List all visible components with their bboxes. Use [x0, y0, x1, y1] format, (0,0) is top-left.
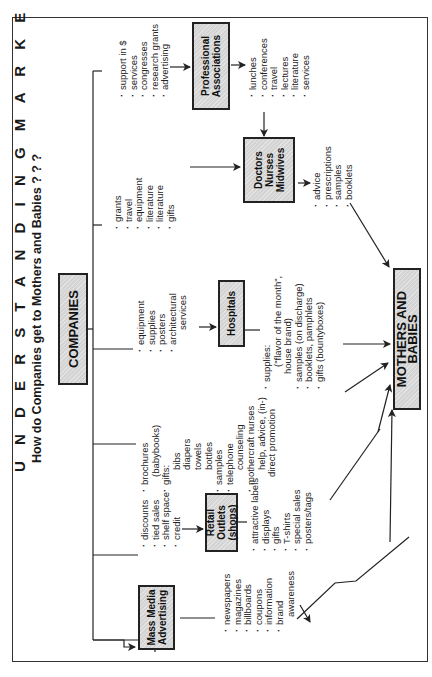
retail-outlets-label: Retail Outlets(shops)	[205, 495, 238, 550]
list-item: brochures	[140, 397, 151, 492]
hospitals-label: Hospitals	[226, 291, 237, 336]
companies-label: COMPANIES	[68, 290, 79, 368]
retail-outlets-node: Retail Outlets(shops)	[205, 493, 238, 552]
mass-media-tools-list: newspapers magazines billboards coupons …	[222, 571, 296, 632]
list-item: advertising	[160, 24, 171, 97]
list-item: gifts:	[161, 397, 172, 492]
direct-promotion-list: brochures (babybooks) gifts: bibs diaper…	[140, 397, 278, 492]
list-item: booklets	[344, 146, 355, 207]
hospitals-node: Hospitals	[218, 280, 245, 347]
companies-node: COMPANIES	[58, 273, 88, 385]
to-doctors-list: grants travel equipment literature liter…	[113, 178, 177, 229]
mothers-and-babies-node: MOTHERS AND BABIES	[393, 268, 421, 410]
list-item: lunches	[248, 38, 259, 97]
list-item: towels	[193, 397, 204, 492]
mass-media-label: Mass MediaAdvertising	[146, 589, 168, 645]
mass-media-node: Mass MediaAdvertising	[138, 585, 175, 650]
to-professional-list: support in $ services congresses researc…	[118, 24, 171, 97]
list-item: supplies:	[262, 276, 273, 389]
list-item: gifts (bountyboxes)	[315, 276, 326, 389]
list-item: newspapers	[222, 571, 233, 632]
doctors-node: DoctorsNursesMidwives	[243, 137, 295, 203]
diagram-stage: U N D E R S T A N D I N G M A R K E T I …	[0, 0, 432, 677]
list-item: posters/tags	[303, 478, 314, 551]
mothers-and-babies-label: MOTHERS AND BABIES	[396, 270, 418, 408]
list-item: grants	[113, 178, 124, 229]
list-item: mothercraft nurses	[246, 397, 257, 492]
list-item: services	[301, 38, 312, 97]
list-item: equipment	[136, 293, 147, 352]
to-hospitals-list: equipment supplies posters architectural…	[136, 293, 189, 352]
list-item: discounts	[140, 492, 151, 547]
list-item: advice	[312, 146, 323, 207]
to-retail-list: discounts tied sales shelf space credit	[140, 492, 182, 547]
professional-associations-label: ProfessionalAssociations	[200, 35, 222, 97]
list-item: awareness	[286, 571, 297, 632]
doctors-tools-list: advice prescriptions samples booklets	[312, 146, 354, 207]
doctors-label: DoctorsNursesMidwives	[253, 148, 286, 192]
list-item: direct promotion	[267, 397, 278, 492]
list-item: services	[178, 293, 189, 352]
professional-tools-list: lunches conferences travel lectures lite…	[248, 38, 312, 97]
list-item: gifts	[166, 178, 177, 229]
list-item: brand	[275, 571, 286, 632]
professional-associations-node: ProfessionalAssociations	[192, 22, 230, 110]
list-item: support in $	[118, 24, 129, 97]
list-item: credit	[172, 492, 183, 547]
hospital-tools-list: supplies: ("flavor of the month", house …	[262, 276, 326, 389]
